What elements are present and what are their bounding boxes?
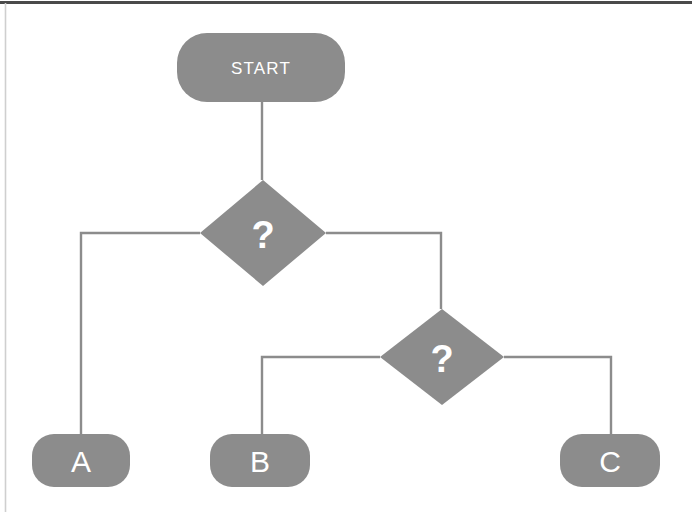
- node-decision2[interactable]: ?: [380, 309, 504, 405]
- flowchart-diagram: START??ABC: [0, 0, 692, 512]
- node-outcomeB[interactable]: B: [210, 434, 310, 487]
- node-label-outcomeC: C: [599, 445, 621, 478]
- flowchart-canvas: START??ABC: [0, 0, 692, 512]
- edge-decision2-outcomeB: [262, 357, 380, 434]
- node-label-decision2: ?: [430, 338, 453, 380]
- node-outcomeC[interactable]: C: [560, 434, 660, 487]
- node-start[interactable]: START: [177, 33, 345, 102]
- node-label-start: START: [231, 59, 291, 78]
- edge-decision1-outcomeA: [81, 233, 200, 434]
- node-label-decision1: ?: [251, 214, 274, 256]
- edge-decision2-outcomeC: [504, 357, 611, 434]
- node-label-outcomeB: B: [250, 445, 270, 478]
- connector-layer: [81, 102, 611, 434]
- edge-decision1-decision2: [326, 233, 441, 309]
- node-layer: START??ABC: [32, 33, 660, 487]
- node-outcomeA[interactable]: A: [32, 434, 130, 487]
- node-decision1[interactable]: ?: [200, 180, 326, 286]
- node-label-outcomeA: A: [71, 445, 91, 478]
